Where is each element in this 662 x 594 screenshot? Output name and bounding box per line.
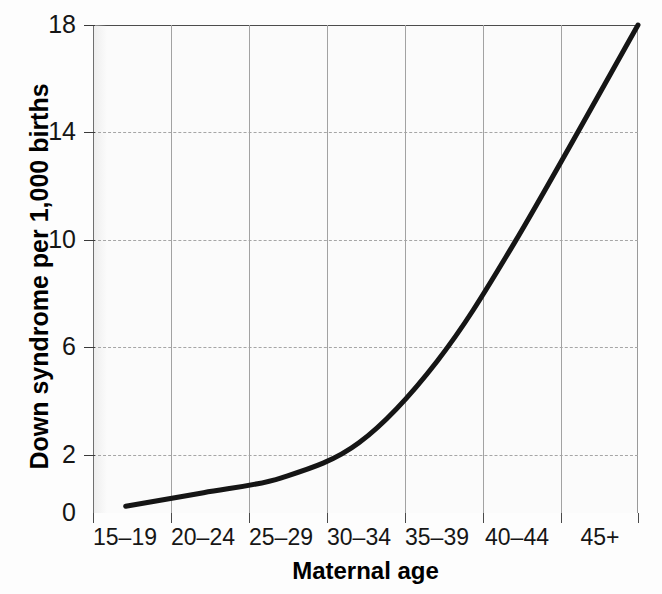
x-tick-label-35-39: 35–39 (405, 524, 469, 551)
gridline-x-4 (405, 25, 406, 513)
x-tick-mark-7 (638, 513, 639, 523)
x-axis-title: Maternal age (93, 557, 638, 585)
gridline-y-6 (93, 347, 638, 348)
y-tick-label-18: 18 (2, 10, 76, 39)
gridline-y-10 (93, 240, 638, 241)
y-axis-title: Down syndrome per 1,000 births (25, 42, 54, 512)
x-tick-mark-3 (327, 513, 328, 523)
x-tick-label-40-44: 40–44 (485, 524, 549, 551)
gridline-x-1 (171, 25, 172, 513)
x-tick-mark-4 (405, 513, 406, 523)
x-tick-label-20-24: 20–24 (171, 524, 235, 551)
plot-area (93, 25, 638, 513)
gridline-x-6 (561, 25, 562, 513)
gridline-y-14 (93, 132, 638, 133)
gridline-x-5 (483, 25, 484, 513)
x-tick-mark-1 (171, 513, 172, 523)
x-tick-label-25-29: 25–29 (249, 524, 313, 551)
x-tick-label-15-19: 15–19 (93, 524, 157, 551)
y-tick-mark-10 (84, 240, 95, 241)
x-tick-mark-2 (249, 513, 250, 523)
y-tick-mark-6 (84, 347, 95, 348)
y-tick-mark-14 (84, 132, 95, 133)
x-tick-mark-0 (93, 513, 94, 523)
x-tick-label-45-plus: 45+ (580, 524, 619, 551)
gridline-y-2 (93, 455, 638, 456)
x-tick-mark-6 (561, 513, 562, 523)
gridline-x-2 (249, 25, 250, 513)
y-tick-mark-2 (84, 455, 95, 456)
x-tick-label-30-34: 30–34 (327, 524, 391, 551)
y-tick-mark-18 (84, 25, 95, 26)
chart-figure: erent between the Utah Mormons and the m… (0, 0, 662, 594)
y-axis-line (93, 25, 94, 513)
gridline-x-3 (327, 25, 328, 513)
x-tick-mark-5 (483, 513, 484, 523)
